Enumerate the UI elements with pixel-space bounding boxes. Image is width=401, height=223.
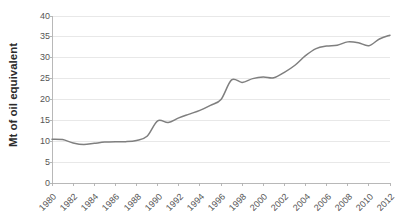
x-axis-tick-labels: 1980198219841986198819901992199419961998… (0, 0, 401, 223)
line-chart: Mt of oil equivalent 0510152025303540 19… (0, 0, 401, 223)
